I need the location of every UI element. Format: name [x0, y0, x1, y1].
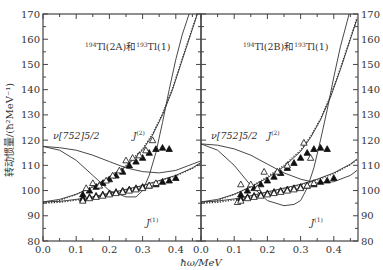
y-tick-label: 80 — [27, 236, 40, 247]
open-triangle-point — [238, 181, 244, 187]
open-triangle-point — [248, 181, 254, 187]
y-tick-label: 120 — [21, 135, 40, 146]
x-tick-label: 0.3 — [293, 244, 309, 255]
open-triangle-point — [83, 185, 89, 191]
x-tick-label: 0.4 — [168, 244, 184, 255]
open-triangle-point — [284, 162, 290, 168]
y-tick-label: 100 — [361, 185, 380, 196]
y-tick-label: 100 — [21, 185, 40, 196]
y-tick-label: 160 — [21, 34, 40, 45]
y-tick-label: 150 — [21, 59, 40, 70]
filled-triangle-point — [324, 177, 330, 183]
y-tick-label: 150 — [361, 59, 380, 70]
filled-triangle-point — [297, 155, 303, 161]
moment-of-inertia-chart: 0.00.10.20.30.48090100110120130140150160… — [0, 0, 383, 270]
annotation: J(2) — [131, 129, 145, 141]
annotation: J(1) — [309, 216, 323, 228]
y-tick-label: 130 — [361, 109, 380, 120]
filled-triangle-point — [291, 160, 297, 166]
filled-triangle-point — [244, 187, 250, 193]
panel-left: 0.00.10.20.30.48090100110120130140150160… — [21, 0, 202, 255]
open-triangle-point — [261, 168, 267, 174]
y-tick-label: 170 — [21, 9, 40, 20]
filled-triangle-point — [317, 179, 323, 185]
y-tick-label: 130 — [21, 109, 40, 120]
filled-triangle-point — [159, 145, 165, 151]
x-tick-label: 0.1 — [226, 244, 242, 255]
y-tick-label: 80 — [361, 236, 374, 247]
panel-right: 0.00.10.20.30.48090100110120130140150160… — [193, 0, 380, 255]
filled-triangle-point — [173, 175, 179, 181]
y-tick-label: 140 — [21, 84, 40, 95]
filled-triangle-point — [311, 146, 317, 152]
x-tick-label: 0.1 — [68, 244, 84, 255]
filled-triangle-point — [324, 146, 330, 152]
filled-triangle-point — [258, 181, 264, 187]
filled-triangle-point — [153, 146, 159, 152]
filled-triangle-point — [264, 177, 270, 183]
y-tick-label: 90 — [361, 210, 374, 221]
annotation: ν[752]5/2 — [53, 130, 100, 141]
y-tick-label: 110 — [361, 160, 380, 171]
y-tick-label: 170 — [361, 9, 380, 20]
panel-title: 194Tl(2A)和193Tl(1) — [85, 41, 170, 52]
open-triangle-point — [136, 152, 142, 158]
x-tick-label: 0.0 — [193, 244, 209, 255]
annotation: ν[752]5/2 — [211, 130, 258, 141]
y-axis-label: 转动惯量/(ħ²MeV⁻¹) — [3, 83, 15, 177]
panel-title: 194Tl(2B)和193Tl(1) — [243, 41, 329, 52]
curve--752-5-2-j-2- — [43, 0, 202, 197]
y-tick-label: 160 — [361, 34, 380, 45]
x-tick-label: 0.4 — [326, 244, 342, 255]
x-axis-label: ħω/MeV — [180, 257, 223, 268]
annotation: J(2) — [265, 129, 279, 141]
y-tick-label: 140 — [361, 84, 380, 95]
y-tick-label: 120 — [361, 135, 380, 146]
filled-triangle-point — [166, 146, 172, 152]
annotation: J(1) — [144, 216, 158, 228]
filled-triangle-point — [304, 150, 310, 156]
y-tick-label: 90 — [27, 210, 40, 221]
x-tick-label: 0.2 — [101, 244, 117, 255]
open-triangle-point — [123, 157, 129, 163]
y-tick-label: 110 — [21, 160, 40, 171]
filled-triangle-point — [317, 145, 323, 151]
filled-triangle-point — [331, 175, 337, 181]
x-tick-label: 0.3 — [135, 244, 151, 255]
open-triangle-point — [90, 180, 96, 186]
x-tick-label: 0.2 — [259, 244, 275, 255]
